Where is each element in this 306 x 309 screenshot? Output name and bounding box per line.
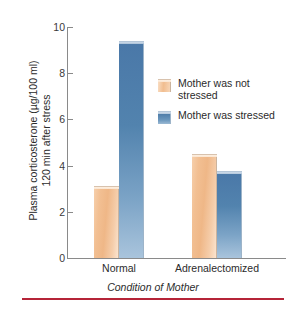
x-axis-spine xyxy=(67,258,286,259)
y-tick-label-6: 6 xyxy=(35,114,65,125)
footer-cut-text xyxy=(22,303,284,309)
bar-face xyxy=(217,174,242,258)
y-tick-label-2: 2 xyxy=(35,207,65,218)
legend-label-not-stressed: Mother was not stressed xyxy=(178,78,250,101)
y-tick-label-10: 10 xyxy=(35,22,65,33)
y-tick-label-0: 0 xyxy=(35,253,65,264)
bar-adrenalectomized-stressed xyxy=(217,171,242,258)
bar-normal-stressed xyxy=(119,41,144,258)
blue-swatch-icon xyxy=(158,111,171,124)
legend-item-stressed: Mother was stressed xyxy=(158,110,275,124)
legend: Mother was not stressed Mother was stres… xyxy=(158,78,275,133)
y-axis-title: Plasma corticosterone (µg/100 ml) 120 mi… xyxy=(27,26,52,256)
x-tick-label-adrenalectomized: Adrenalectomized xyxy=(175,262,259,274)
legend-item-not-stressed: Mother was not stressed xyxy=(158,78,275,101)
bar-face xyxy=(119,44,144,258)
plot-area xyxy=(68,27,286,258)
orange-swatch-icon xyxy=(158,79,171,92)
legend-label-stressed: Mother was stressed xyxy=(178,110,275,122)
bar-face xyxy=(192,157,217,258)
x-tick-label-normal: Normal xyxy=(102,262,136,274)
x-axis-title: Condition of Mother xyxy=(0,281,306,293)
y-tick-label-4: 4 xyxy=(35,161,65,172)
bar-adrenalectomized-not-stressed xyxy=(192,154,217,258)
bar-face xyxy=(94,189,119,258)
bar-chart-figure: Plasma corticosterone (µg/100 ml) 120 mi… xyxy=(0,0,306,309)
bar-normal-not-stressed xyxy=(94,186,119,258)
y-tick-label-8: 8 xyxy=(35,68,65,79)
footer-rule xyxy=(22,298,284,300)
